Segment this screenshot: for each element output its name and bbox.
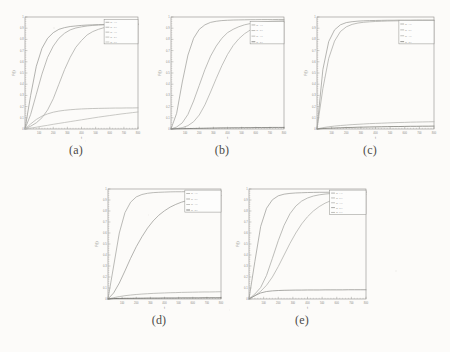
y-tick-label: 0 [105, 297, 107, 301]
y-tick-label: 0.5 [244, 242, 248, 246]
x-tick-label: 800 [282, 131, 287, 135]
x-tick-label: 300 [359, 131, 364, 135]
y-tick-label: 0.7 [244, 220, 248, 224]
x-tick-label: 100 [329, 131, 334, 135]
x-tick-label: 300 [148, 301, 153, 305]
x-tick-label: 400 [162, 301, 167, 305]
y-axis-label: F(t) [12, 70, 16, 75]
legend-label: m=4.0 [110, 36, 117, 39]
plot-b: 10020030040050060070080000.10.20.30.40.5… [158, 14, 286, 140]
y-tick-label: 0.1 [166, 116, 170, 120]
y-tick-label: 0.8 [166, 37, 170, 41]
y-tick-label: 0.7 [20, 49, 24, 53]
x-tick-label: 200 [344, 131, 349, 135]
curve-a-series-4 [25, 112, 138, 129]
x-tick-label: 800 [364, 301, 369, 305]
y-axis-label: F(t) [236, 241, 240, 246]
y-tick-label: 0.8 [244, 209, 248, 213]
y-tick-label: 1 [105, 187, 107, 191]
x-tick-label: 700 [205, 301, 210, 305]
legend-label: m=3.0 [405, 35, 412, 38]
x-tick-label: 400 [305, 301, 310, 305]
x-tick-label: 500 [320, 301, 325, 305]
y-tick-label: 0.4 [103, 253, 107, 257]
x-tick-label: 500 [176, 301, 181, 305]
x-tick-label: 700 [122, 131, 127, 135]
y-tick-label: 0.3 [166, 93, 170, 97]
y-tick-label: 0.2 [166, 105, 170, 109]
y-tick-label: 0.4 [312, 82, 316, 86]
legend-label: m=1.0 [191, 192, 198, 195]
legend-label: m=3.0 [256, 35, 263, 38]
x-tick-label: 100 [183, 131, 188, 135]
y-tick-label: 1 [168, 15, 170, 19]
y-tick-label: 0.3 [103, 264, 107, 268]
y-tick-label: 1 [314, 15, 316, 19]
x-tick-label: 100 [120, 301, 125, 305]
panel-caption-a: (a) [12, 143, 140, 158]
y-tick-label: 0.9 [244, 198, 248, 202]
legend-label: m=4.0 [405, 41, 412, 44]
legend-label: m=3.0 [110, 31, 117, 34]
legend-label: m=2.0 [336, 197, 343, 200]
x-tick-label: 300 [291, 301, 296, 305]
x-tick-label: 600 [191, 301, 196, 305]
x-tick-label: 500 [388, 131, 393, 135]
x-tick-label: 400 [373, 131, 378, 135]
legend-box [104, 19, 138, 44]
panel-b: 10020030040050060070080000.10.20.30.40.5… [158, 14, 286, 160]
legend-label: m=1.0 [110, 21, 117, 24]
y-tick-label: 0 [22, 127, 24, 131]
y-tick-label: 0.8 [103, 209, 107, 213]
panel-e: 10020030040050060070080000.10.20.30.40.5… [236, 186, 368, 330]
legend-label: m=2.0 [191, 198, 198, 201]
panel-caption-d: (d) [95, 313, 223, 328]
y-tick-label: 0.3 [244, 264, 248, 268]
legend-label: m=1.0 [256, 24, 263, 27]
x-tick-label: 400 [225, 131, 230, 135]
x-axis-label: t [307, 306, 308, 310]
x-tick-label: 800 [432, 131, 437, 135]
x-tick-label: 600 [335, 301, 340, 305]
legend-label: m=5.0 [110, 41, 117, 44]
x-tick-label: 600 [108, 131, 113, 135]
panel-d: 10020030040050060070080000.10.20.30.40.5… [95, 186, 223, 330]
legend-label: m=4.0 [336, 207, 343, 210]
x-tick-label: 200 [197, 131, 202, 135]
x-tick-label: 800 [219, 301, 224, 305]
figure-multi-panel: 10020030040050060070080000.10.20.30.40.5… [0, 0, 450, 352]
legend-label: m=4.0 [256, 41, 263, 44]
panel-a: 10020030040050060070080000.10.20.30.40.5… [12, 14, 140, 160]
x-axis-label: t [81, 136, 82, 140]
panel-c: 10020030040050060070080000.10.20.30.40.5… [304, 14, 436, 160]
legend-label: m=3.0 [191, 203, 198, 206]
y-tick-label: 0.9 [166, 26, 170, 30]
y-tick-label: 0.5 [20, 71, 24, 75]
x-axis-label: t [375, 136, 376, 140]
x-tick-label: 300 [65, 131, 70, 135]
x-tick-label: 500 [239, 131, 244, 135]
plot-a: 10020030040050060070080000.10.20.30.40.5… [12, 14, 140, 140]
x-tick-label: 700 [349, 301, 354, 305]
y-tick-label: 0.1 [312, 116, 316, 120]
y-tick-label: 0.3 [20, 93, 24, 97]
y-tick-label: 0.6 [312, 60, 316, 64]
y-axis-label: F(t) [304, 70, 308, 75]
y-tick-label: 0.8 [20, 37, 24, 41]
y-tick-label: 0.7 [312, 49, 316, 53]
x-tick-label: 800 [136, 131, 141, 135]
x-tick-label: 100 [37, 131, 42, 135]
x-tick-label: 700 [417, 131, 422, 135]
x-tick-label: 100 [261, 301, 266, 305]
x-tick-label: 200 [134, 301, 139, 305]
plot-c: 10020030040050060070080000.10.20.30.40.5… [304, 14, 436, 140]
x-tick-label: 600 [403, 131, 408, 135]
y-tick-label: 0.9 [312, 26, 316, 30]
legend-label: m=2.0 [256, 29, 263, 32]
legend-label: m=4.0 [191, 209, 198, 212]
legend-label: m=2.0 [110, 26, 117, 29]
y-tick-label: 0.5 [166, 71, 170, 75]
y-tick-label: 0 [246, 297, 248, 301]
legend-label: m=1.0 [336, 192, 343, 195]
y-tick-label: 0.1 [20, 116, 24, 120]
